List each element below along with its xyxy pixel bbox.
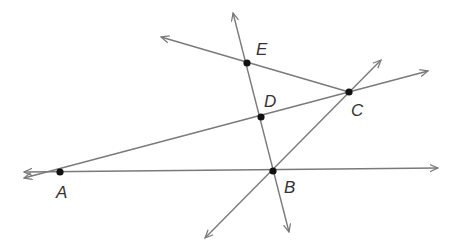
- line-ADC: [24, 71, 428, 178]
- label-c: C: [351, 101, 364, 120]
- line-AB: [24, 168, 438, 172]
- point-c: [345, 88, 352, 95]
- label-a: A: [55, 183, 67, 202]
- line-EC: [161, 37, 349, 92]
- labels-layer: ABCDE: [55, 40, 364, 202]
- point-a: [56, 168, 63, 175]
- geometry-diagram: ABCDE: [0, 0, 460, 246]
- label-e: E: [256, 40, 268, 59]
- label-d: D: [264, 92, 276, 111]
- point-e: [243, 59, 250, 66]
- lines-layer: [24, 13, 438, 238]
- point-b: [269, 167, 276, 174]
- label-b: B: [284, 178, 295, 197]
- point-d: [257, 113, 264, 120]
- line-BC: [205, 60, 381, 238]
